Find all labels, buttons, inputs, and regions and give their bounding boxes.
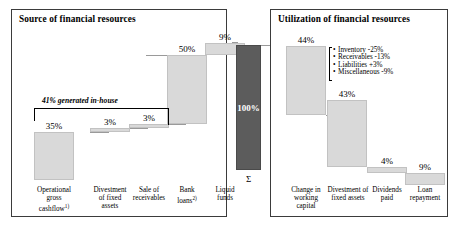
- bar-divestment-of-fixed-assets: [90, 128, 130, 132]
- breakdown-bullet-list: •Inventory -25% •Receivables -13% •Liabi…: [333, 47, 393, 77]
- bar-label-bank-loans: 50%: [167, 44, 207, 54]
- axis-line-2: funds: [217, 194, 233, 202]
- bar-label-liquid-funds: 9%: [205, 32, 245, 42]
- connector-3: [169, 124, 186, 125]
- axis-line-2: of fixed: [99, 194, 122, 202]
- bar-label-divestment-of-fixed-assets-right: 43%: [327, 89, 367, 99]
- axis-line-1: Loan: [418, 186, 433, 194]
- utilization-panel-title: Utilization of financial resources: [278, 14, 410, 24]
- bar-label-dividends-paid: 4%: [367, 156, 407, 166]
- bar-label-change-in-working-capital: 44%: [286, 35, 326, 45]
- axis-line-1: Sale of: [139, 186, 159, 194]
- bar-label-loan-repayment: 9%: [405, 162, 445, 172]
- bar-sale-of-receivables: [129, 124, 169, 128]
- axis-line-1: Liquid: [215, 186, 234, 194]
- axis-line-2: repayment: [410, 194, 440, 202]
- axis-line-1: Operational: [37, 186, 71, 194]
- axis-line-2: working: [294, 194, 318, 202]
- in-house-bracket-right: [168, 108, 169, 125]
- axis-line-2: paid: [381, 194, 393, 202]
- source-panel: Source of financial resources 35% 3% 3% …: [11, 9, 227, 217]
- bar-operational-gross-cashflow: [34, 132, 74, 180]
- bar-label-operational-gross-cashflow: 35%: [34, 121, 74, 131]
- axis-line-3: assets: [102, 202, 119, 210]
- bullet-item-miscellaneous: •Miscellaneous -9%: [333, 69, 393, 76]
- axis-line-2: fixed assets: [331, 194, 364, 202]
- in-house-annotation-label: 41% generated in-house: [42, 96, 118, 105]
- axis-line-2: loans: [177, 197, 192, 205]
- connector-4: [146, 55, 167, 56]
- axis-line-1: Change in: [291, 186, 320, 194]
- bar-divestment-of-fixed-assets-right: [327, 100, 367, 167]
- breakdown-bracket-vertical: [329, 47, 330, 81]
- axis-line-1: Bank: [179, 186, 194, 194]
- axis-line-1: Dividends: [372, 186, 402, 194]
- connector-2: [130, 128, 148, 129]
- utilization-panel: Utilization of financial resources 44% 4…: [270, 9, 448, 217]
- total-bar-label: 100%: [236, 103, 261, 113]
- waterfall-chart-figure: Source of financial resources 35% 3% 3% …: [0, 0, 459, 226]
- bar-label-sale-of-receivables: 3%: [129, 113, 169, 123]
- bar-dividends-paid: [367, 167, 407, 173]
- bar-loan-repayment: [405, 173, 445, 185]
- bullet-text: Miscellaneous -9%: [338, 68, 393, 76]
- axis-footnote: 1): [65, 203, 69, 209]
- connector-left-to-total: [232, 42, 238, 43]
- total-axis-label-sigma: Σ: [236, 174, 261, 184]
- axis-line-2: gross: [46, 194, 61, 202]
- axis-label-liquid-funds: Liquid funds: [197, 186, 253, 202]
- bar-bank-loans: [167, 55, 207, 124]
- breakdown-bracket-top: [329, 47, 332, 48]
- bar-change-in-working-capital: [286, 46, 326, 115]
- breakdown-bracket-bottom: [329, 80, 332, 81]
- in-house-bracket-left: [34, 108, 35, 121]
- connector-1: [90, 132, 109, 133]
- axis-label-loan-repayment: Loan repayment: [399, 186, 451, 202]
- axis-line-3: capital: [296, 202, 315, 210]
- bar-label-divestment-of-fixed-assets: 3%: [90, 117, 130, 127]
- axis-label-operational-gross-cashflow: Operational gross cashflow1): [26, 186, 82, 214]
- in-house-bracket-top: [34, 108, 169, 109]
- axis-line-3: cashflow: [39, 206, 65, 214]
- source-panel-title: Source of financial resources: [19, 14, 136, 24]
